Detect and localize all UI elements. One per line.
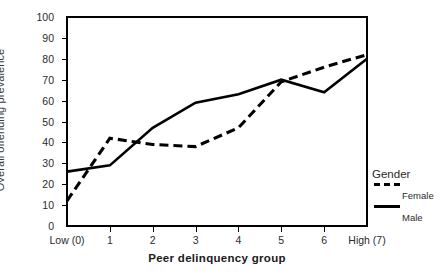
y-tick-mark [62, 101, 67, 102]
y-tick-mark [62, 184, 67, 185]
x-tick-mark [110, 227, 111, 232]
x-tick-mark [238, 227, 239, 232]
legend-label: Female [402, 190, 434, 201]
y-tick-mark [62, 163, 67, 164]
y-tick-mark [62, 38, 67, 39]
x-tick-label: High (7) [332, 234, 402, 246]
series-line-male [67, 59, 367, 172]
legend-label: Male [402, 212, 423, 223]
y-tick-mark [62, 59, 67, 60]
x-tick-mark [196, 227, 197, 232]
y-tick-mark [62, 205, 67, 206]
legend-swatch-female [374, 183, 400, 186]
legend: Gender FemaleMale [372, 168, 440, 224]
x-tick-mark [281, 227, 282, 232]
x-tick-mark [324, 227, 325, 232]
y-tick-mark [62, 122, 67, 123]
y-tick-mark [62, 142, 67, 143]
legend-entries: FemaleMale [372, 180, 440, 224]
legend-title: Gender [372, 168, 440, 180]
series-line-female [67, 55, 367, 201]
y-tick-mark [62, 80, 67, 81]
legend-entry: Male [372, 202, 440, 224]
legend-entry: Female [372, 180, 440, 202]
x-tick-mark [153, 227, 154, 232]
chart-figure: Overall offending prevalence 01020304050… [0, 0, 440, 277]
x-axis-title: Peer delinquency group [66, 252, 368, 264]
legend-swatch-male [374, 205, 400, 208]
